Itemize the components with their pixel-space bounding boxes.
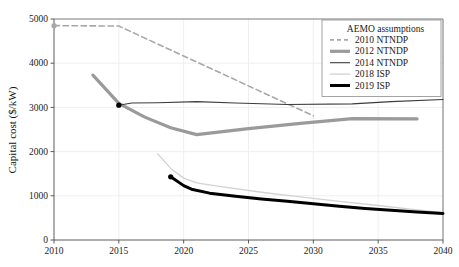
chart-legend: AEMO assumptions2010 NTNDP2012 NTNDP2014… — [322, 20, 441, 96]
x-axis-tick-label: 2030 — [304, 246, 323, 256]
capital-cost-line-chart: 010002000300040005000 201020152020202520… — [0, 0, 459, 267]
legend-label: 2012 NTNDP — [355, 46, 408, 56]
y-axis-tick-label: 3000 — [29, 103, 48, 113]
y-axis-title-label: Capital cost ($/kW) — [6, 86, 19, 173]
legend-label: 2014 NTNDP — [355, 58, 408, 68]
series-start-marker — [168, 174, 173, 179]
x-axis-tick-label: 2015 — [109, 246, 128, 256]
y-axis-tick-label: 2000 — [29, 147, 48, 157]
x-axis-tick-label: 2010 — [45, 246, 64, 256]
legend-label: 2010 NTNDP — [355, 35, 408, 45]
legend-label: 2019 ISP — [355, 81, 390, 91]
x-axis-tick-label: 2020 — [174, 246, 193, 256]
legend-label: 2018 ISP — [355, 69, 390, 79]
y-axis-title: Capital cost ($/kW) — [6, 86, 19, 173]
y-axis-tick-label: 1000 — [29, 191, 48, 201]
y-axis-ticks: 010002000300040005000 — [29, 14, 54, 245]
x-axis-ticks: 2010201520202025203020352040 — [45, 240, 453, 256]
legend-title: AEMO assumptions — [347, 24, 425, 34]
x-axis-tick-label: 2035 — [369, 246, 388, 256]
series-start-marker — [116, 103, 121, 108]
series-start-marker — [51, 23, 56, 28]
y-axis-tick-label: 4000 — [29, 58, 48, 68]
x-axis-tick-label: 2025 — [239, 246, 258, 256]
x-axis-tick-label: 2040 — [434, 246, 453, 256]
chart-canvas: 010002000300040005000 201020152020202520… — [0, 0, 459, 267]
y-axis-tick-label: 0 — [43, 235, 48, 245]
y-axis-tick-label: 5000 — [29, 14, 48, 24]
